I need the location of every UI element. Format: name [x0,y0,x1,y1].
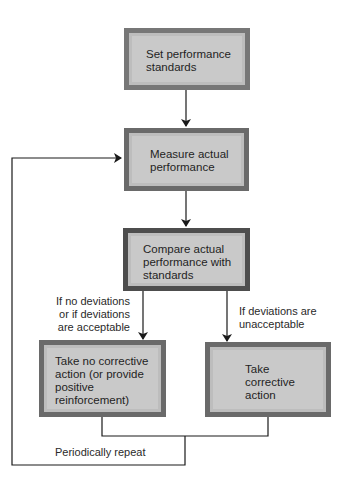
merge-line [102,416,268,436]
node-compare-label: Compare actual performance with standard… [143,243,231,282]
edge-label-acceptable: If no deviations or if deviations are ac… [40,295,130,334]
label-line: action (or provide [55,368,148,381]
label-line: Compare actual [143,243,231,256]
label-line: Set performance [146,48,231,61]
edge-label-unacceptable: If deviations are unacceptable [239,305,317,331]
label-line: performance [150,161,229,174]
control-process-flowchart: Set performance standards Measure actual… [0,0,345,492]
node-no-action-label: Take no corrective action (or provide po… [55,355,148,407]
label-line: If deviations are [239,305,317,318]
label-line: standards [143,269,231,282]
label-line: action [245,389,295,402]
label-line: corrective [245,376,295,389]
node-measure-label: Measure actual performance [150,148,229,174]
edge-label-periodically-repeat: Periodically repeat [55,446,146,459]
label-line: Measure actual [150,148,229,161]
label-line: positive [55,381,148,394]
label-line: reinforcement) [55,394,148,407]
label-line: standards [146,61,231,74]
label-line: Take no corrective [55,355,148,368]
label-line: performance with [143,256,231,269]
label-line: Take [245,363,295,376]
label-line: are acceptable [40,321,130,334]
node-set-standards-label: Set performance standards [146,48,231,74]
label-line: unacceptable [239,318,317,331]
label-line: If no deviations [40,295,130,308]
node-corrective-label: Take corrective action [245,363,295,402]
label-line: or if deviations [40,308,130,321]
